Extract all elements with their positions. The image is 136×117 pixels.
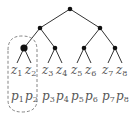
leaf-label-z: z8 (116, 64, 127, 78)
root-node (68, 7, 73, 12)
leaf-label-p: p8 (116, 90, 129, 104)
node (113, 46, 118, 51)
leaf-label-p: p5 (71, 90, 84, 104)
leaf-label-p: p4 (56, 90, 69, 104)
leaf-label-z: z3 (42, 64, 53, 78)
leaf-label-p: p2 (25, 90, 38, 104)
leaf-label-z: z1 (11, 64, 22, 78)
node (82, 46, 87, 51)
node (98, 26, 103, 31)
leaf-label-z: z2 (25, 64, 36, 78)
leaf-label-z: z7 (102, 64, 113, 78)
node (38, 26, 43, 31)
leaf-label-p: p6 (85, 90, 98, 104)
leaf-label-p: p1 (11, 90, 24, 104)
leaf-label-z: z6 (85, 64, 96, 78)
highlighted-node (20, 44, 27, 51)
leaf-label-p: p3 (42, 90, 55, 104)
leaf-label-z: z4 (56, 64, 67, 78)
leaf-label-z: z5 (71, 64, 82, 78)
leaf-label-p: p7 (102, 90, 115, 104)
node (53, 46, 58, 51)
